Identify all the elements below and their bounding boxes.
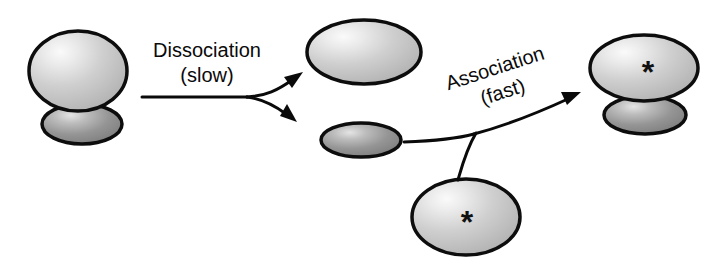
labeled-free-ligand: * bbox=[412, 179, 520, 255]
reaction-diagram: Dissociation (slow) * Association (fast) bbox=[0, 0, 724, 265]
association-arrow-labeled-branch bbox=[458, 133, 476, 180]
dissociation-arrow-upper-branch bbox=[247, 80, 292, 97]
free-ligand-ellipse bbox=[321, 123, 401, 157]
dissociation-label: Dissociation (slow) bbox=[153, 39, 261, 86]
dissociation-label-line2: (slow) bbox=[180, 64, 233, 86]
diagram-canvas: Dissociation (slow) * Association (fast) bbox=[0, 0, 724, 265]
product-complex: * bbox=[590, 35, 698, 134]
reactant-complex-large-ellipse bbox=[29, 31, 127, 111]
product-complex-asterisk: * bbox=[642, 54, 655, 90]
dissociation-arrow-lower-head bbox=[280, 104, 297, 122]
dissociation-arrow-lower-branch bbox=[247, 97, 286, 114]
reactant-complex bbox=[29, 31, 127, 144]
dissociation-label-line1: Dissociation bbox=[153, 39, 261, 61]
dissociation-arrow-upper-head bbox=[284, 72, 303, 88]
association-arrow-ligand-branch bbox=[404, 134, 474, 142]
free-receptor bbox=[307, 20, 421, 84]
free-ligand bbox=[321, 123, 401, 157]
labeled-free-ligand-asterisk: * bbox=[461, 204, 474, 240]
association-label: Association (fast) bbox=[443, 42, 555, 118]
free-receptor-ellipse bbox=[307, 20, 421, 84]
association-arrow-head bbox=[561, 92, 581, 105]
